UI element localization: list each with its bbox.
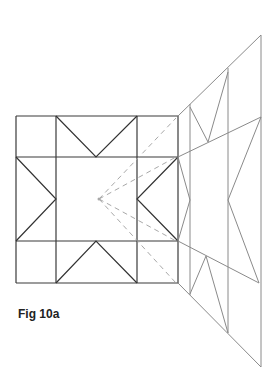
perspective-quilt-diagram (0, 0, 278, 387)
vanishing-point (98, 198, 101, 201)
triangle-right-arrow (137, 157, 178, 241)
wall-fold (228, 117, 261, 283)
wall-fold (190, 256, 228, 333)
triangle-top-v (56, 116, 137, 157)
figure-caption: Fig 10a (18, 307, 59, 321)
perspective-wall (178, 35, 261, 367)
triangle-left-arrow (16, 157, 56, 241)
wall-fold (190, 72, 228, 142)
triangle-bottom-v (56, 241, 137, 283)
wall-fold (178, 157, 190, 241)
quilt-block (16, 116, 178, 283)
